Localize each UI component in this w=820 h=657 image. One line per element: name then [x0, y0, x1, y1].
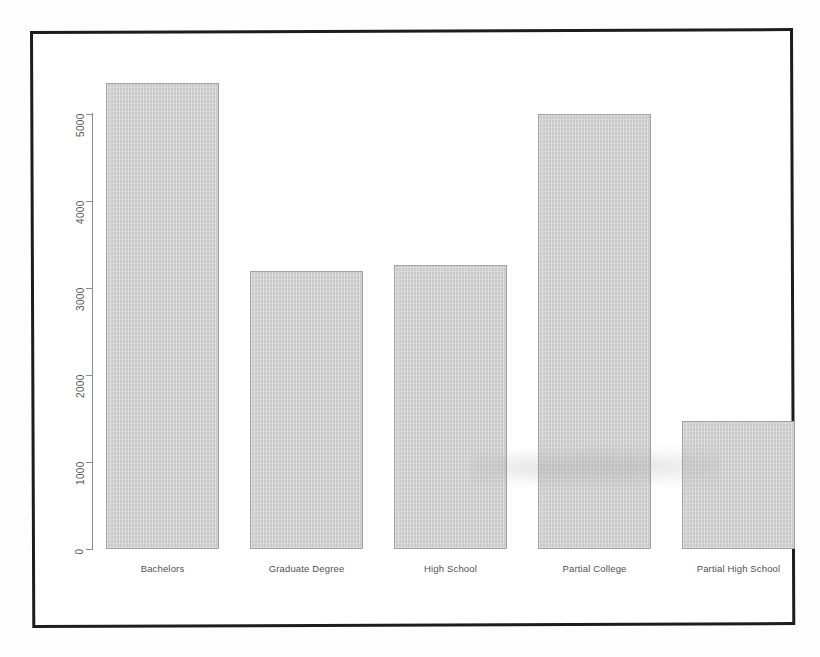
y-axis-tick-mark	[86, 114, 93, 115]
y-axis-tick-label: 0	[50, 543, 80, 555]
y-axis-tick-mark	[86, 549, 93, 550]
y-axis-tick-label: 1000	[50, 456, 80, 468]
y-axis-tick-label-text: 1000	[75, 462, 86, 485]
y-axis-tick-mark	[86, 288, 93, 289]
y-axis-tick-label-text: 5000	[75, 114, 86, 137]
y-axis-tick-label-text: 2000	[75, 375, 86, 398]
y-axis-tick-mark	[86, 375, 93, 376]
x-axis-label-bachelors: Bachelors	[106, 563, 219, 574]
y-axis-tick-label-text: 0	[75, 549, 86, 555]
bar-high-school	[394, 265, 507, 549]
x-axis-label-high-school: High School	[394, 563, 507, 574]
chart-page: 010002000300040005000 BachelorsGraduate …	[0, 0, 820, 657]
x-axis-label-partial-college: Partial College	[538, 563, 651, 574]
y-axis-tick-label-text: 3000	[75, 288, 86, 311]
y-axis-tick-label: 2000	[50, 369, 80, 381]
y-axis-tick-mark	[86, 462, 93, 463]
y-axis-line	[92, 113, 93, 550]
y-axis-tick-label: 4000	[50, 195, 80, 207]
x-axis-label-graduate-degree: Graduate Degree	[250, 563, 363, 574]
y-axis-tick-mark	[86, 201, 93, 202]
bar-partial-high-school	[682, 421, 795, 549]
bar-partial-college	[538, 114, 651, 549]
x-axis-label-partial-high-school: Partial High School	[682, 563, 795, 574]
bar-chart-plot-area: 010002000300040005000 BachelorsGraduate …	[0, 0, 820, 657]
bar-bachelors	[106, 83, 219, 549]
y-axis-tick-label-text: 4000	[75, 201, 86, 224]
y-axis-tick-label: 5000	[50, 108, 80, 120]
y-axis-tick-label: 3000	[50, 282, 80, 294]
bar-graduate-degree	[250, 271, 363, 549]
